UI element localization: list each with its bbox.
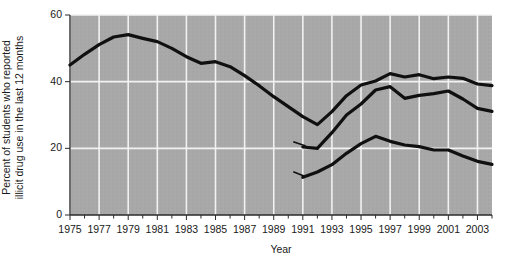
chart-figure: Percent of students who reported illicit… <box>0 0 524 265</box>
plot-background <box>70 15 492 215</box>
plot-canvas <box>0 0 524 265</box>
